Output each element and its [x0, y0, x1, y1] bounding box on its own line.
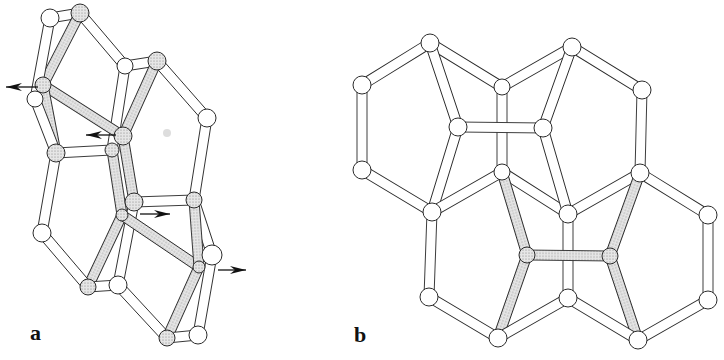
bond	[424, 212, 437, 297]
atom-node	[423, 203, 441, 221]
atom-node	[629, 331, 647, 349]
atom-node	[494, 79, 510, 95]
atom-node	[534, 119, 552, 137]
atom-node	[420, 288, 438, 306]
displacement-arrow-icon	[140, 210, 170, 218]
dotted-atom-node	[602, 248, 618, 264]
atom-node	[489, 329, 507, 347]
atom-node	[41, 9, 59, 27]
atom-node	[353, 76, 371, 94]
dotted-bond	[527, 250, 610, 261]
dotted-atom-node	[114, 127, 132, 145]
atom-node	[353, 161, 371, 179]
atom-node	[563, 38, 581, 56]
bond	[189, 117, 212, 201]
panel-label-a: a	[30, 322, 41, 344]
atom-node	[202, 245, 222, 265]
atom-node	[494, 164, 510, 180]
atom-node	[421, 34, 439, 52]
atom-node	[631, 164, 649, 182]
dotted-atom-node	[105, 143, 119, 157]
panel-a-diagram	[6, 4, 246, 346]
dotted-atom-node	[47, 144, 65, 162]
atom-node	[109, 276, 127, 294]
dotted-atom-node	[80, 279, 96, 295]
atom-node	[117, 58, 133, 74]
dotted-atom-node	[116, 209, 128, 221]
displacement-arrow-icon	[218, 266, 246, 274]
atom-node	[33, 224, 51, 242]
dotted-atom-node	[159, 330, 175, 346]
dotted-atom-node	[186, 192, 202, 208]
atom-node	[198, 109, 216, 127]
dotted-atom-node	[35, 77, 51, 93]
dotted-atom-node	[148, 52, 166, 70]
dotted-atom-node	[193, 261, 205, 273]
atom-node	[449, 118, 467, 136]
faint-blob	[163, 129, 171, 137]
dotted-atom-node	[125, 193, 143, 211]
panel-label-b: b	[354, 324, 366, 346]
structure-diagram	[0, 0, 724, 360]
atom-node	[699, 206, 717, 224]
bond	[37, 152, 61, 234]
atom-node	[633, 81, 651, 99]
dotted-atom-node	[519, 247, 535, 263]
dotted-atom-node	[71, 4, 89, 22]
bond	[357, 85, 367, 170]
atom-node	[559, 289, 577, 307]
atom-node	[559, 205, 577, 223]
bond	[458, 122, 543, 133]
atom-node	[27, 91, 43, 107]
panel-b-diagram	[353, 34, 717, 349]
atom-node	[189, 326, 207, 344]
bond	[703, 215, 713, 300]
atom-node	[699, 291, 717, 309]
bond	[635, 90, 647, 173]
